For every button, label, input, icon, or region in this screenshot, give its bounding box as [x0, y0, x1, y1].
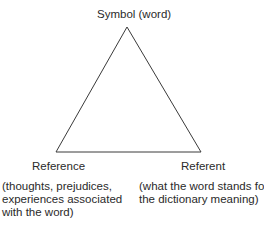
reference-description-line: with the word) — [2, 206, 122, 219]
referent-description-line: the dictionary meaning) — [139, 193, 264, 206]
reference-description: (thoughts, prejudices, experiences assoc… — [2, 180, 122, 219]
referent-description-line: (what the word stands for, — [139, 180, 264, 193]
reference-description-line: experiences associated — [2, 193, 122, 206]
node-reference-label: Reference — [32, 160, 85, 173]
referent-description: (what the word stands for, the dictionar… — [139, 180, 264, 206]
node-symbol-label: Symbol (word) — [97, 8, 171, 21]
triangle-shape — [56, 27, 201, 152]
reference-description-line: (thoughts, prejudices, — [2, 180, 122, 193]
node-referent-label: Referent — [181, 160, 225, 173]
